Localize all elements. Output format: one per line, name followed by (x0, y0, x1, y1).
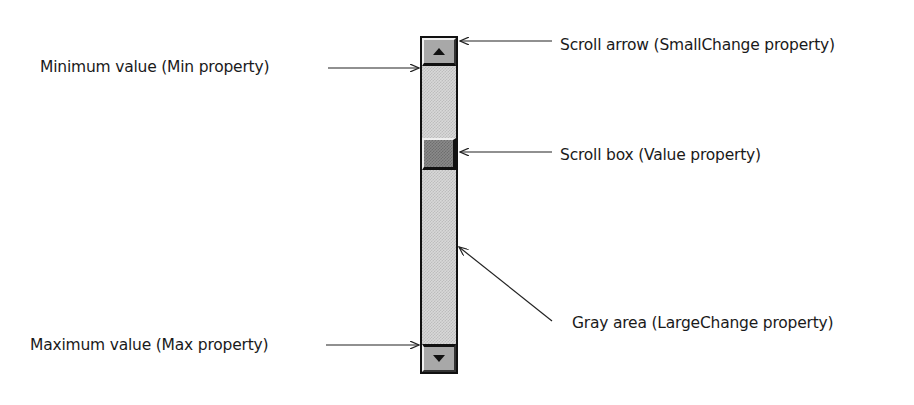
callout-arrows (0, 0, 914, 405)
gray-area-pointer (459, 247, 552, 321)
